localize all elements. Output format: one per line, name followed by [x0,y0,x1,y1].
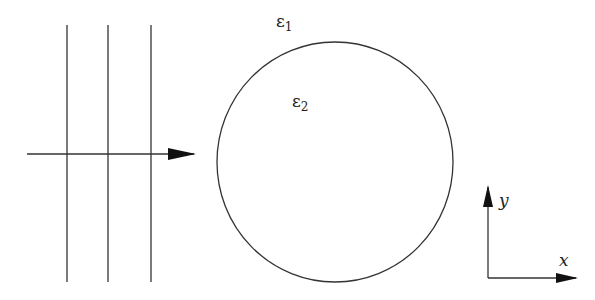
diagram-canvas: ε1 ε2 y x [0,0,595,300]
eps-inner-label: ε2 [292,91,308,114]
coordinate-axes: y x [488,187,576,278]
x-axis-label: x [559,250,569,270]
eps-outer-label: ε1 [276,11,292,34]
dielectric-cylinder [217,42,453,282]
y-axis-label: y [498,190,509,210]
